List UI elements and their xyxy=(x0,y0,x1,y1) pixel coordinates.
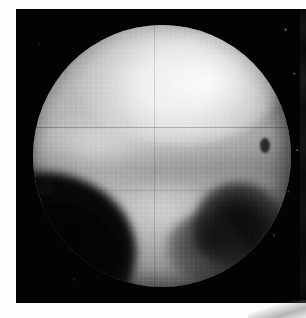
map-projection-seam-horizontal-lower xyxy=(33,190,291,191)
adjacent-frame-sliver xyxy=(300,9,306,303)
feature-western-limb-nick xyxy=(38,182,53,195)
planet-disk xyxy=(33,25,291,287)
map-projection-seam-vertical xyxy=(154,25,155,287)
page-root: Grayscale telescopic image of the disk o… xyxy=(0,0,306,318)
feature-southeast-dark-tail xyxy=(167,214,244,282)
image-plate xyxy=(16,9,306,303)
feature-northeast-bright-lobe xyxy=(152,30,276,135)
map-projection-seam-horizontal xyxy=(33,127,291,128)
planet-disk-container xyxy=(33,25,291,287)
